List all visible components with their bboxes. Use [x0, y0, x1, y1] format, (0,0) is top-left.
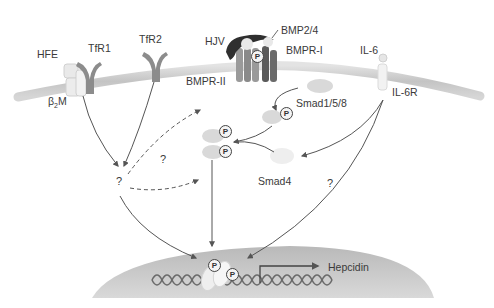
phospho-dimer-top-icon: P [219, 125, 232, 138]
il6-unknown-link-label: ? [327, 178, 333, 189]
nucleus [92, 246, 434, 298]
il6-label: IL-6 [360, 45, 378, 56]
tfr2-label: TfR2 [139, 34, 162, 45]
phospho-smad-icon: P [280, 107, 293, 120]
hepcidin-label: Hepcidin [328, 262, 369, 273]
phospho-dimer-bottom-icon: P [219, 145, 232, 158]
b2m-suffix: M [58, 95, 67, 107]
smad158-protein [307, 79, 333, 93]
hjv-label: HJV [205, 36, 225, 47]
phospho-dna-complex-1-icon: P [208, 259, 221, 272]
smad4-label: Smad4 [258, 176, 291, 187]
smad4-protein [270, 148, 294, 164]
bmpr1-label: BMPR-I [286, 45, 323, 56]
il6r-label: IL-6R [392, 87, 418, 98]
unknown-link-label: ? [160, 154, 166, 165]
il6-receptor [378, 54, 387, 90]
bmpr2-label: BMPR-II [186, 76, 226, 87]
smad158-label: Smad1/5/8 [296, 98, 347, 109]
hypothetical-arrows [128, 110, 200, 190]
b2m-label: β2M [48, 96, 67, 109]
phospho-dna-complex-2-icon: P [226, 268, 239, 281]
hfe-label: HFE [37, 49, 58, 60]
phospho-smad [262, 110, 282, 124]
bmp-label: BMP2/4 [281, 25, 318, 36]
hepcidin-pathway-diagram [0, 0, 494, 308]
unknown-mediator-label: ? [116, 176, 122, 187]
tfr1-label: TfR1 [88, 43, 111, 54]
phospho-bmpr1-icon: P [251, 50, 264, 63]
